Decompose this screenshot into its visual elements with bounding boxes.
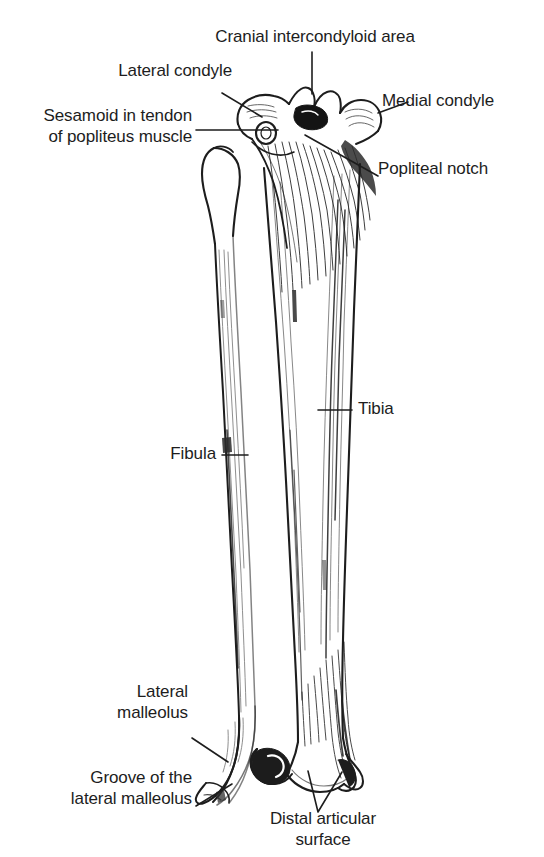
label-popliteal-notch: Popliteal notch bbox=[378, 158, 538, 179]
label-distal-articular-surface-line2: surface bbox=[238, 829, 408, 850]
bone-group bbox=[192, 52, 408, 812]
label-cranial-intercondyloid-area: Cranial intercondyloid area bbox=[190, 26, 440, 47]
label-sesamoid-popliteus-line1: Sesamoid in tendon bbox=[14, 105, 192, 126]
leader-popliteal-notch bbox=[305, 135, 378, 176]
label-lateral-malleolus-line1: Lateral bbox=[78, 681, 188, 702]
sesamoid-marker bbox=[256, 122, 276, 144]
label-lateral-condyle: Lateral condyle bbox=[80, 60, 232, 81]
label-lateral-malleolus-line2: malleolus bbox=[78, 702, 188, 723]
tibia-shape bbox=[237, 88, 381, 792]
label-medial-condyle: Medial condyle bbox=[382, 90, 542, 111]
label-groove-lateral-malleolus-line2: lateral malleolus bbox=[24, 788, 192, 809]
label-tibia: Tibia bbox=[358, 398, 448, 419]
leader-lateral-malleolus bbox=[192, 738, 228, 762]
label-fibula: Fibula bbox=[130, 443, 216, 464]
anatomical-figure: Cranial intercondyloid area Lateral cond… bbox=[0, 0, 544, 857]
label-sesamoid-popliteus-line2: of popliteus muscle bbox=[14, 126, 192, 147]
label-groove-lateral-malleolus-line1: Groove of the bbox=[42, 767, 192, 788]
fibula-shape bbox=[196, 146, 255, 805]
label-distal-articular-surface-line1: Distal articular bbox=[238, 808, 408, 829]
